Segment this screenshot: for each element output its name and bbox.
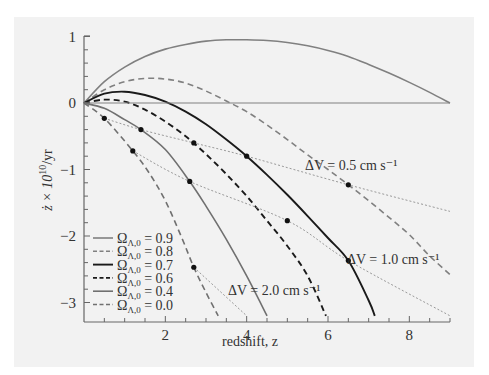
annotation-dv-2-0: ΔV = 2.0 cm s⁻¹ xyxy=(228,283,320,298)
y-tick-label: −2 xyxy=(60,228,76,244)
data-point xyxy=(191,265,196,270)
data-point xyxy=(102,116,107,121)
data-point xyxy=(187,179,192,184)
x-axis-title: redshift, z xyxy=(222,334,278,349)
annotation-dv-1-0: ΔV = 1.0 cm s⁻¹ xyxy=(347,252,439,267)
y-tick-label: −3 xyxy=(60,295,76,311)
legend-label: ΩΛ,0 = 0.0 xyxy=(117,298,173,315)
data-point xyxy=(130,148,135,153)
y-tick-label: 0 xyxy=(69,95,77,111)
x-tick-label: 6 xyxy=(324,327,332,343)
y-axis-title: ż × 1010/yr xyxy=(37,149,55,212)
annotation-dv-0-5: ΔV = 0.5 cm s⁻¹ xyxy=(305,158,397,173)
y-tick-label: 1 xyxy=(69,29,77,45)
x-tick-label: 2 xyxy=(162,327,170,343)
data-point xyxy=(285,218,290,223)
x-tick-label: 8 xyxy=(406,327,414,343)
y-tick-label: −1 xyxy=(60,162,76,178)
legend: ΩΛ,0 = 0.9ΩΛ,0 = 0.8ΩΛ,0 = 0.7ΩΛ,0 = 0.6… xyxy=(93,231,173,315)
chart: 246810−1−2−3 redshift, z ż × 1010/yr ΔV … xyxy=(0,0,489,375)
data-point xyxy=(346,182,351,187)
data-point xyxy=(244,154,249,159)
data-point xyxy=(191,140,196,145)
data-point xyxy=(138,127,143,132)
